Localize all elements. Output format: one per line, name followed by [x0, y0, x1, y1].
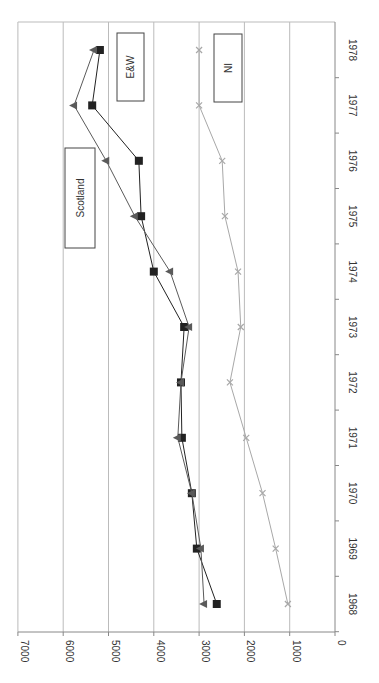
value-tick-label: 3000: [200, 640, 211, 663]
triangle-marker: [165, 268, 173, 276]
square-marker: [88, 101, 96, 109]
triangle-marker: [101, 157, 109, 165]
triangle-marker: [69, 101, 77, 109]
year-tick-label: 1971: [347, 427, 358, 450]
value-tick-label: 1000: [291, 640, 302, 663]
year-tick-label: 1973: [347, 316, 358, 339]
value-tick-label: 6000: [64, 640, 75, 663]
label-box-ew: E&W: [117, 33, 144, 101]
value-tick-label: 7000: [19, 640, 30, 663]
year-tick-label: 1969: [347, 537, 358, 560]
label-box-ni: NI: [214, 34, 242, 102]
value-tick-label: 0: [336, 640, 347, 646]
square-marker: [137, 212, 145, 220]
square-marker: [96, 46, 104, 54]
triangle-marker: [173, 434, 181, 442]
year-tick-label: 1968: [347, 593, 358, 616]
square-marker: [213, 600, 221, 608]
year-tick-label: 1970: [347, 482, 358, 505]
square-marker: [135, 157, 143, 165]
value-tick-label: 5000: [110, 640, 121, 663]
year-tick-label: 1976: [347, 150, 358, 173]
label-scotland: Scotland: [75, 179, 86, 218]
value-tick-label: 4000: [155, 640, 166, 663]
series-scotland: [69, 46, 207, 608]
year-tick-label: 1974: [347, 260, 358, 283]
label-ew: E&W: [125, 55, 136, 78]
series-ni: [196, 47, 291, 607]
value-tick-label: 2000: [245, 640, 256, 663]
triangle-marker: [199, 600, 207, 608]
label-ni: NI: [223, 63, 234, 73]
year-tick-label: 1978: [347, 39, 358, 62]
square-marker: [150, 268, 158, 276]
axes: [18, 22, 339, 636]
gridlines: [18, 22, 335, 632]
year-tick-label: 1977: [347, 94, 358, 117]
series-lines: [69, 46, 291, 608]
year-tick-label: 1975: [347, 205, 358, 228]
year-tick-label: 1972: [347, 371, 358, 394]
label-box-scotland: Scotland: [65, 148, 95, 248]
tick-labels: 0100020003000400050006000700019681969197…: [19, 39, 358, 663]
line-chart: 0100020003000400050006000700019681969197…: [0, 0, 379, 683]
